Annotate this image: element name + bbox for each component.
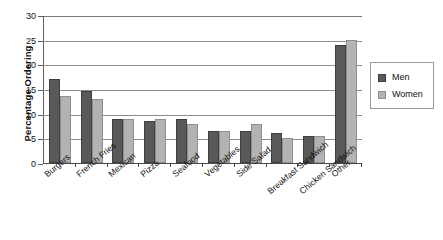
bar-group [171,16,203,163]
bar-men[interactable] [335,45,346,163]
bar-men[interactable] [176,119,187,163]
y-axis-tick-label: 30 [26,12,36,21]
plot-area: 051015202530 [43,16,362,164]
bar-men[interactable] [144,121,155,163]
bar-group [44,16,76,163]
y-axis-tick-label: 0 [31,160,36,169]
bar-group [267,16,299,163]
bar-men[interactable] [81,91,92,163]
y-axis-tick [38,90,43,91]
y-axis-tick [38,65,43,66]
bar-group [203,16,235,163]
y-axis-tick-label: 10 [26,110,36,119]
y-axis-tick [38,115,43,116]
legend-item-men: Men [378,69,433,86]
bar-women[interactable] [155,119,166,163]
y-axis-tick [38,41,43,42]
legend: Men Women [370,62,434,109]
bar-men[interactable] [271,133,282,163]
bar-women[interactable] [282,138,293,163]
legend-label-men: Men [392,73,410,82]
bar-group [235,16,267,163]
bar-men[interactable] [112,119,123,163]
legend-item-women: Women [378,86,433,103]
legend-swatch-men [378,74,386,82]
y-axis-tick-label: 20 [26,61,36,70]
bar-groups [44,16,362,163]
bar-group [330,16,362,163]
legend-label-women: Women [392,90,423,99]
y-axis-tick-label: 15 [26,86,36,95]
y-axis-tick [38,16,43,17]
bar-group [76,16,108,163]
y-axis-tick-label: 5 [31,135,36,144]
y-axis-tick-label: 25 [26,36,36,45]
bar-group [139,16,171,163]
bar-chart: Percentage Ordering 051015202530 Burgers… [0,0,443,240]
legend-swatch-women [378,91,386,99]
y-axis-tick [38,139,43,140]
bar-men[interactable] [49,79,60,163]
x-axis-labels: BurgersFrench FriesMexicanPizzaSeafoodVe… [43,165,362,240]
